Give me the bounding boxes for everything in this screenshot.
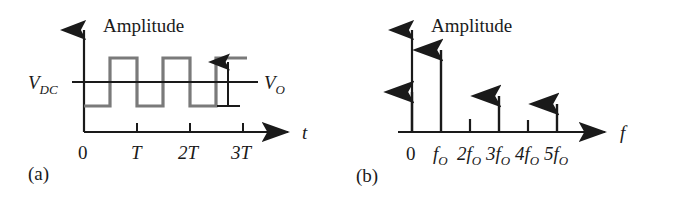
panel-b-x-axis-label: f (620, 122, 628, 143)
figure-root: Amplitude VDC VO t 0 T 2T 3T (a) (0, 0, 677, 200)
vdc-label: VDC (28, 72, 58, 97)
panel-b-tick-label-5f0-sub: O (559, 153, 569, 168)
panel-b-tick-label-4f0: 4fO (515, 143, 540, 168)
panel-b-tick-label-2f0: 2fO (457, 143, 482, 168)
panel-a-tick-label-2T: 2T (178, 142, 200, 163)
panel-a-x-ticks (84, 123, 243, 132)
panel-a-amplitude-label: Amplitude (103, 15, 184, 36)
panel-a-time-domain: Amplitude VDC VO t 0 T 2T 3T (a) (0, 0, 340, 200)
panel-a-tick-label-0: 0 (78, 142, 88, 163)
panel-b-tick-label-0: 0 (406, 143, 416, 164)
panel-b-tick-label-f0: fO (433, 143, 448, 168)
panel-a-caption: (a) (28, 163, 49, 185)
panel-b-tick-label-3f0-sub: O (501, 153, 511, 168)
panel-b-tick-label-3f0: 3fO (485, 143, 511, 168)
panel-b-svg: Amplitude f 0 fO 2fO 3fO 4fO 5fO (b) (340, 0, 677, 200)
panel-a-svg: Amplitude VDC VO t 0 T 2T 3T (a) (0, 0, 340, 200)
vo-label-sub: O (276, 82, 286, 97)
panel-b-tick-label-5f0: 5fO (544, 143, 569, 168)
panel-b-amplitude-label: Amplitude (431, 15, 512, 36)
panel-b-tick-label-f0-sub: O (438, 153, 448, 168)
vdc-label-sub: DC (39, 82, 58, 97)
panel-a-tick-label-T: T (131, 142, 143, 163)
panel-b-tick-label-4f0-sub: O (530, 153, 540, 168)
panel-b-frequency-domain: Amplitude f 0 fO 2fO 3fO 4fO 5fO (b) (340, 0, 677, 200)
panel-a-tick-label-3T: 3T (230, 142, 253, 163)
panel-a-x-axis-label: t (302, 122, 308, 143)
panel-b-tick-label-2f0-sub: O (472, 153, 482, 168)
vo-label: VO (264, 72, 286, 97)
panel-b-caption: (b) (356, 165, 378, 187)
